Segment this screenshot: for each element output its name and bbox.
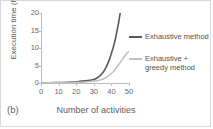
x-tick-label: 20 bbox=[67, 87, 85, 96]
x-tick-mark bbox=[111, 83, 112, 86]
figure-panel: 05101520 Execution time (h) 01020304050 … bbox=[0, 0, 211, 127]
legend-swatch-icon bbox=[129, 58, 142, 60]
y-axis-tick-labels: 05101520 bbox=[19, 1, 39, 126]
x-axis-title: Number of activities bbox=[41, 105, 151, 115]
x-tick-label: 0 bbox=[32, 87, 50, 96]
plot-area bbox=[41, 13, 129, 83]
legend-swatch-icon bbox=[129, 36, 142, 38]
series-line-exhaustive-greedy bbox=[41, 51, 129, 83]
y-axis-title: Execution time (h) bbox=[9, 0, 18, 65]
x-tick-label: 30 bbox=[85, 87, 103, 96]
x-tick-mark bbox=[94, 83, 95, 86]
legend-label: Exhaustive + greedy method bbox=[145, 54, 211, 73]
x-axis-line bbox=[41, 83, 129, 84]
x-tick-label: 10 bbox=[50, 87, 68, 96]
x-tick-mark bbox=[76, 83, 77, 86]
series-line-exhaustive bbox=[41, 13, 120, 83]
legend-label: Exhaustive method bbox=[145, 32, 209, 42]
legend-item: Exhaustive + greedy method bbox=[129, 54, 211, 73]
legend-item: Exhaustive method bbox=[129, 32, 211, 42]
x-tick-mark bbox=[59, 83, 60, 86]
panel-label: (b) bbox=[7, 104, 19, 115]
chart-legend: Exhaustive methodExhaustive + greedy met… bbox=[129, 32, 211, 85]
x-tick-mark bbox=[41, 83, 42, 86]
x-tick-label: 50 bbox=[120, 87, 138, 96]
x-tick-label: 40 bbox=[102, 87, 120, 96]
